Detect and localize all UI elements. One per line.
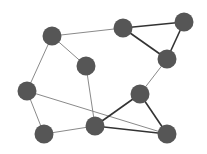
node-J <box>158 125 177 144</box>
node-E <box>77 57 96 76</box>
node-H <box>86 117 105 136</box>
node-B <box>114 19 133 38</box>
node-F <box>18 82 37 101</box>
node-G <box>131 85 150 104</box>
node-A <box>43 27 62 46</box>
node-I <box>35 125 54 144</box>
node-D <box>158 50 177 69</box>
edge-A-B <box>52 28 123 36</box>
node-C <box>175 13 194 32</box>
nodes-layer <box>18 13 194 144</box>
edge-H-J <box>95 126 167 134</box>
graph-diagram <box>0 0 207 154</box>
